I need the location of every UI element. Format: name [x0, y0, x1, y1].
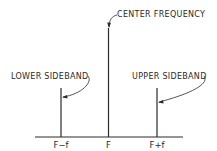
tick-label-upper: F+f — [149, 141, 164, 150]
center-leader-arrow — [109, 15, 117, 27]
lower-sideband-label: LOWER SIDEBAND — [11, 73, 89, 81]
tick-label-center: F — [106, 141, 111, 150]
upper-arrowhead-icon — [158, 100, 164, 104]
center-frequency-label: CENTER FREQUENCY — [117, 11, 205, 19]
center-arrowhead-icon — [107, 23, 111, 29]
upper-sideband-label: UPPER SIDEBAND — [132, 73, 207, 81]
tick-label-lower: F−f — [53, 141, 68, 150]
lower-arrowhead-icon — [62, 95, 68, 99]
